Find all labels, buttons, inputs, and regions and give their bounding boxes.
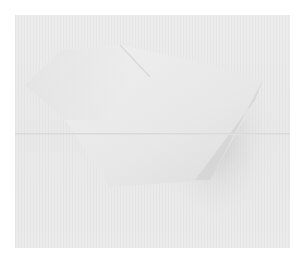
fold-line xyxy=(15,133,290,135)
paper-shape xyxy=(15,15,290,248)
photo xyxy=(15,15,290,248)
